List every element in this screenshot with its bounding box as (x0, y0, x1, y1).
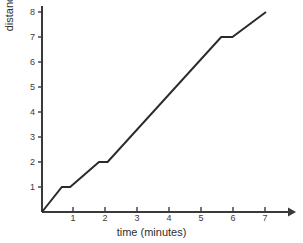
x-tick-label: 3 (134, 214, 139, 223)
y-tick-label: 7 (26, 33, 35, 42)
x-axis-arrow-icon (288, 208, 296, 217)
y-tick-label: 1 (26, 183, 35, 192)
x-tick-label: 7 (262, 214, 267, 223)
y-tick-label: 6 (26, 58, 35, 67)
y-axis-title: distance (blocks) (3, 0, 15, 50)
y-tick-label: 3 (26, 133, 35, 142)
x-tick-label: 2 (102, 214, 107, 223)
x-tick-label: 5 (198, 214, 203, 223)
y-tick-label: 4 (26, 108, 35, 117)
y-tick-label: 5 (26, 83, 35, 92)
x-axis-title: time (minutes) (0, 226, 303, 238)
x-tick-label: 4 (166, 214, 171, 223)
chart-plot-area (0, 0, 303, 243)
y-tick-label: 2 (26, 158, 35, 167)
x-tick-label: 6 (230, 214, 235, 223)
data-series-line (42, 12, 266, 212)
axes-group (42, 6, 296, 217)
x-tick-label: 1 (70, 214, 75, 223)
distance-time-chart: 1 2 3 4 5 6 7 1 2 3 4 5 6 7 8 time (minu… (0, 0, 303, 243)
y-tick-label: 8 (26, 8, 35, 17)
